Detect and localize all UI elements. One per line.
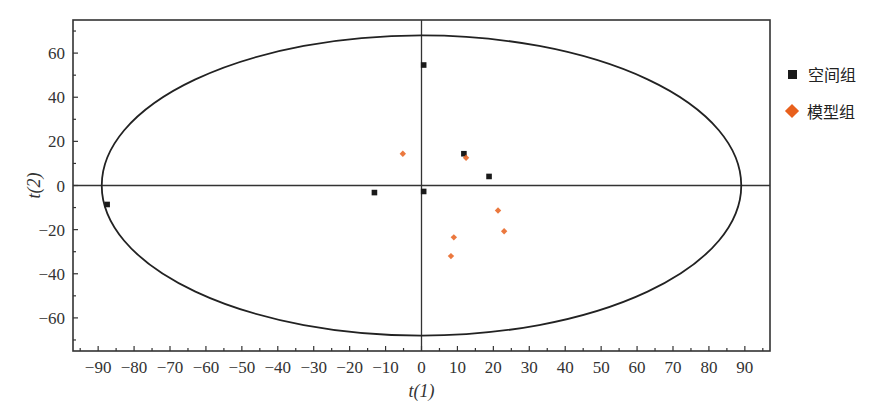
model-group-point — [400, 151, 406, 157]
x-tick-label: 40 — [557, 358, 574, 377]
legend: 空间组 模型组 — [786, 62, 856, 136]
model-group-point — [451, 234, 457, 240]
x-tick-label: −90 — [85, 358, 112, 377]
x-tick-label: −10 — [372, 358, 399, 377]
legend-label: 模型组 — [807, 99, 855, 123]
plot-area: −90−80−70−60−50−40−30−20−100102030405060… — [38, 20, 770, 377]
y-tick-label: 60 — [48, 44, 65, 63]
x-tick-label: −20 — [336, 358, 363, 377]
legend-item-model: 模型组 — [786, 99, 856, 123]
y-tick-label: −20 — [38, 221, 65, 240]
x-tick-label: −70 — [157, 358, 184, 377]
x-tick-label: 0 — [417, 358, 426, 377]
scatter-plot: −90−80−70−60−50−40−30−20−100102030405060… — [0, 0, 883, 409]
y-tick-label: 0 — [57, 177, 66, 196]
control-group-point — [421, 62, 427, 68]
legend-item-control: 空间组 — [786, 62, 856, 86]
control-group-point — [372, 190, 378, 196]
y-tick-label: 20 — [48, 132, 65, 151]
model-group-point — [495, 207, 501, 213]
x-tick-label: −60 — [193, 358, 220, 377]
diamond-marker-icon — [785, 104, 799, 118]
control-group-point — [486, 174, 492, 180]
y-tick-label: −40 — [38, 265, 65, 284]
x-tick-label: 90 — [736, 358, 753, 377]
x-tick-label: 30 — [521, 358, 538, 377]
control-group-point — [421, 189, 427, 195]
x-tick-label: −80 — [121, 358, 148, 377]
x-tick-label: −30 — [300, 358, 327, 377]
y-tick-label: 40 — [48, 88, 65, 107]
x-tick-label: 10 — [449, 358, 466, 377]
x-tick-label: −50 — [229, 358, 256, 377]
x-tick-label: 50 — [593, 358, 610, 377]
model-group-point — [501, 228, 507, 234]
x-tick-label: 60 — [629, 358, 646, 377]
x-tick-label: 80 — [700, 358, 717, 377]
control-group-point — [104, 202, 110, 208]
x-tick-label: 70 — [664, 358, 681, 377]
x-axis-title: t(1) — [409, 381, 435, 402]
legend-label: 空间组 — [808, 62, 856, 86]
x-tick-label: −40 — [264, 358, 291, 377]
y-tick-label: −60 — [38, 309, 65, 328]
y-axis-title: t(2) — [24, 173, 45, 199]
square-marker-icon — [788, 70, 797, 79]
model-group-point — [448, 253, 454, 259]
x-tick-label: 20 — [485, 358, 502, 377]
